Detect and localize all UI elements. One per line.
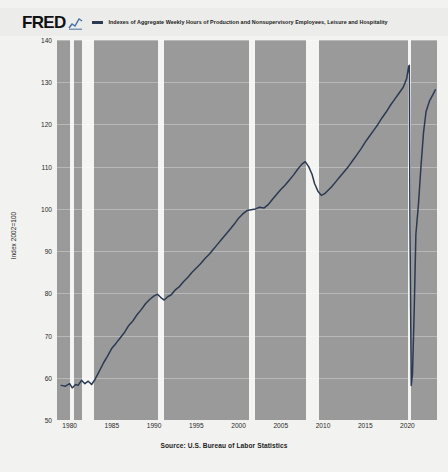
x-tick-1980: 1980 (62, 422, 77, 429)
x-tick-2005: 2005 (273, 422, 288, 429)
y-tick-100: 100 (26, 205, 52, 212)
y-tick-110: 110 (26, 163, 52, 170)
x-tick-2000: 2000 (231, 422, 246, 429)
y-axis-ticks: 1401301201101009080706050 (22, 36, 52, 420)
fred-logo-text: FRED (22, 13, 65, 32)
chart-legend: Indexes of Aggregate Weekly Hours of Pro… (92, 19, 387, 25)
y-tick-50: 50 (26, 417, 52, 424)
plot-canvas (57, 40, 437, 420)
y-tick-60: 60 (26, 374, 52, 381)
source-note: Source: U.S. Bureau of Labor Statistics (0, 442, 448, 449)
y-tick-140: 140 (26, 37, 52, 44)
y-tick-120: 120 (26, 121, 52, 128)
chart-header: FRED Indexes of Aggregate Weekly Hours o… (0, 8, 448, 36)
y-tick-90: 90 (26, 248, 52, 255)
chart-area: Index 2002=100 1401301201101009080706050… (0, 36, 448, 436)
y-tick-130: 130 (26, 79, 52, 86)
y-axis-label: Index 2002=100 (10, 196, 17, 276)
x-tick-2020: 2020 (400, 422, 415, 429)
fred-logo[interactable]: FRED (22, 14, 83, 31)
legend-color-swatch (92, 21, 103, 24)
y-tick-80: 80 (26, 290, 52, 297)
x-tick-1985: 1985 (105, 422, 120, 429)
x-tick-1995: 1995 (189, 422, 204, 429)
x-tick-2015: 2015 (358, 422, 373, 429)
x-axis-ticks: 198019851990199520002005201020152020 (57, 422, 437, 438)
fred-chart-screenshot: FRED Indexes of Aggregate Weekly Hours o… (0, 0, 448, 472)
x-tick-1990: 1990 (147, 422, 162, 429)
line-chart-glyph-icon (68, 16, 83, 29)
series-line-chart (57, 40, 437, 420)
x-tick-2010: 2010 (316, 422, 331, 429)
y-tick-70: 70 (26, 332, 52, 339)
legend-series-label: Indexes of Aggregate Weekly Hours of Pro… (108, 19, 387, 25)
